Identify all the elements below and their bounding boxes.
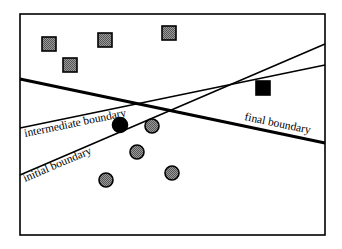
gray-circle-point bbox=[99, 173, 113, 187]
square-class-points bbox=[42, 26, 270, 95]
gray-square-point bbox=[63, 58, 77, 72]
gray-circle-point bbox=[130, 145, 144, 159]
boundary-diagram: final boundaryintermediate boundaryiniti… bbox=[0, 0, 342, 249]
gray-circle-point bbox=[145, 119, 159, 133]
gray-square-point bbox=[162, 26, 176, 40]
black-square-point bbox=[256, 81, 270, 95]
black-circle-point bbox=[113, 118, 128, 133]
circle-class-points bbox=[99, 118, 179, 188]
gray-circle-point bbox=[165, 166, 179, 180]
gray-square-point bbox=[98, 33, 112, 47]
gray-square-point bbox=[42, 37, 56, 51]
initial-boundary-label: initial boundary bbox=[21, 144, 94, 185]
final-boundary-line bbox=[20, 79, 325, 143]
